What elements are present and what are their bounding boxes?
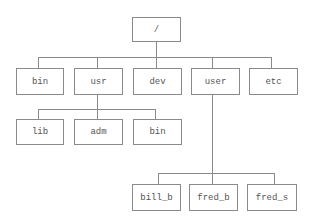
node-label: fred_b <box>197 193 229 203</box>
connector-lib <box>38 109 39 119</box>
node-usr-bin: bin <box>133 119 182 145</box>
node-bill-b: bill_b <box>132 184 181 211</box>
node-dev: dev <box>133 68 182 95</box>
connector-fred-b <box>212 173 213 184</box>
connector-dev <box>156 57 157 68</box>
node-label: fred_s <box>256 193 288 203</box>
connector-bill-b <box>158 173 159 184</box>
connector-user-down <box>212 94 213 173</box>
connector-etc <box>271 57 272 68</box>
node-adm: adm <box>74 119 123 145</box>
node-label: bill_b <box>140 193 172 203</box>
connector-usr-down <box>97 94 98 109</box>
connector-adm <box>97 109 98 119</box>
node-bin: bin <box>16 68 64 95</box>
connector-bin <box>38 57 39 68</box>
node-label: lib <box>32 127 48 137</box>
connector-root-down <box>156 41 157 57</box>
node-usr: usr <box>74 68 123 95</box>
connector-fred-s <box>274 173 275 184</box>
node-label: user <box>205 77 227 87</box>
node-label: / <box>154 25 159 35</box>
connector-level1-bus <box>38 57 272 58</box>
node-label: dev <box>149 77 165 87</box>
node-fred-s: fred_s <box>247 184 297 211</box>
node-root: / <box>132 17 181 42</box>
node-label: bin <box>149 127 165 137</box>
node-user: user <box>191 68 240 95</box>
connector-user-bus <box>158 173 275 174</box>
node-label: bin <box>32 77 48 87</box>
node-label: usr <box>90 77 106 87</box>
node-fred-b: fred_b <box>189 184 238 211</box>
directory-tree-diagram: / bin usr dev user etc lib adm bin bill_… <box>0 0 315 222</box>
node-label: etc <box>265 77 281 87</box>
node-label: adm <box>90 127 106 137</box>
node-etc: etc <box>249 68 298 95</box>
connector-usr <box>97 57 98 68</box>
connector-usr-bin <box>155 109 156 119</box>
connector-user <box>212 57 213 68</box>
node-lib: lib <box>16 119 64 145</box>
